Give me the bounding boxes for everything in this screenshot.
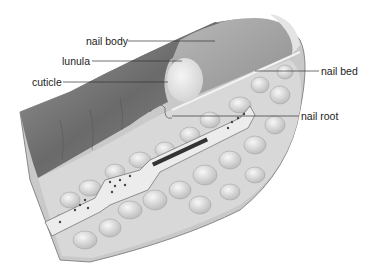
label-nail-body: nail body: [86, 35, 128, 47]
label-lunula: lunula: [62, 55, 90, 67]
fingernail-anatomy-diagram: nail body lunula cuticle nail bed nail r…: [0, 0, 379, 272]
leader-lines: [0, 0, 379, 272]
label-nail-root: nail root: [301, 110, 338, 122]
label-cuticle: cuticle: [32, 76, 62, 88]
label-nail-bed: nail bed: [321, 65, 358, 77]
